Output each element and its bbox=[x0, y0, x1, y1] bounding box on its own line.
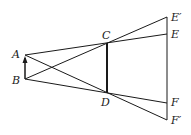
label-d: D bbox=[100, 96, 110, 109]
line-a-e bbox=[25, 34, 167, 55]
ray-diagram: A B C D E′ E F F′ bbox=[0, 0, 191, 135]
label-f-prime: F′ bbox=[170, 114, 182, 127]
line-b-e-prime bbox=[25, 17, 167, 79]
line-b-f bbox=[25, 79, 167, 103]
label-e: E bbox=[170, 28, 179, 41]
label-a: A bbox=[11, 48, 20, 61]
label-b: B bbox=[11, 74, 20, 87]
label-e-prime: E′ bbox=[170, 11, 182, 24]
line-a-f-prime bbox=[25, 55, 167, 120]
arrowhead-icon bbox=[23, 56, 28, 63]
label-f: F bbox=[170, 96, 179, 109]
label-c: C bbox=[102, 29, 111, 42]
